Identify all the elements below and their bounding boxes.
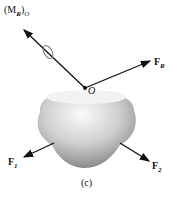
- origin-point: [83, 86, 87, 90]
- force-f1-vector: [24, 143, 54, 157]
- force-f2-vector: [120, 143, 149, 161]
- figure-caption: (c): [81, 177, 92, 188]
- f2-label: F2: [152, 160, 162, 174]
- origin-label: O: [88, 85, 95, 96]
- moment-vector: [24, 30, 85, 88]
- resultant-force-vector: [85, 61, 150, 88]
- resultant-label: FR: [154, 56, 165, 70]
- body-top-opening: [46, 90, 126, 104]
- f1-label: F1: [8, 156, 18, 170]
- diagram-canvas: [0, 0, 174, 201]
- moment-label: (MR)O: [4, 4, 29, 18]
